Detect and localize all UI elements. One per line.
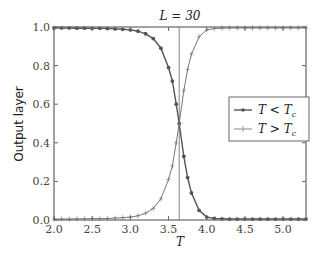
data-point [228, 25, 232, 30]
data-point [273, 25, 277, 30]
data-point [174, 140, 178, 145]
data-point [144, 211, 148, 216]
x-tick-label: 2.5 [83, 223, 101, 236]
data-point [182, 154, 186, 158]
legend: T < Tc T > Tc [229, 97, 309, 141]
x-tick-label: 4.5 [236, 223, 254, 236]
y-axis-label: Output layer [12, 86, 26, 162]
data-point [167, 66, 171, 70]
data-point [121, 27, 125, 31]
data-point [174, 102, 178, 106]
data-point [197, 208, 201, 212]
legend-label-above-tc: T > Tc [258, 122, 297, 138]
data-point [189, 52, 193, 57]
data-point [251, 25, 255, 30]
data-point [258, 25, 262, 30]
y-tick-label: 0.0 [33, 214, 51, 227]
data-point [186, 176, 190, 180]
data-point [159, 46, 163, 50]
data-point [170, 163, 174, 168]
data-point [167, 177, 171, 182]
data-point [186, 67, 190, 72]
data-point [266, 25, 270, 30]
chart: 2.02.53.03.54.04.55.00.00.20.40.60.81.0 … [0, 0, 321, 259]
y-tick-label: 0.2 [33, 175, 51, 188]
x-tick-label: 4.0 [198, 223, 216, 236]
x-tick-label: 3.0 [122, 223, 140, 236]
x-tick-label: 3.5 [160, 223, 178, 236]
data-point [182, 88, 186, 93]
data-point [67, 217, 71, 222]
legend-label-below-tc: T < Tc [258, 103, 297, 119]
data-point [170, 79, 174, 83]
y-tick-label: 0.6 [33, 98, 51, 111]
data-point [296, 25, 300, 30]
y-tick-label: 0.8 [33, 60, 51, 73]
data-point [136, 213, 140, 218]
y-tick-label: 0.4 [33, 137, 51, 150]
chart-title: L = 30 [159, 9, 201, 23]
data-point [136, 29, 140, 33]
data-point [190, 191, 194, 195]
data-point [177, 121, 181, 126]
data-point [235, 25, 239, 30]
x-tick-label: 5.0 [274, 223, 292, 236]
data-point [151, 37, 155, 41]
y-tick-label: 1.0 [33, 21, 51, 34]
x-axis-label: T [176, 235, 185, 249]
data-point [289, 25, 293, 30]
data-point [60, 217, 64, 222]
data-point [144, 32, 148, 36]
